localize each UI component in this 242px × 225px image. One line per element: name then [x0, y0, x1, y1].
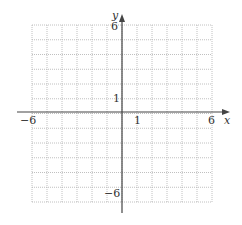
coordinate-plane: y 6 1 −6 −6 1 6 x — [0, 0, 242, 225]
x-tick-min: −6 — [20, 114, 36, 127]
x-tick-max: 6 — [208, 114, 215, 127]
y-axis-arrow-icon — [119, 14, 125, 22]
y-tick-min: −6 — [104, 187, 120, 200]
y-tick-one: 1 — [113, 92, 120, 105]
x-tick-one: 1 — [134, 114, 141, 127]
y-tick-max: 6 — [111, 20, 118, 33]
x-axis-label: x — [224, 114, 231, 127]
